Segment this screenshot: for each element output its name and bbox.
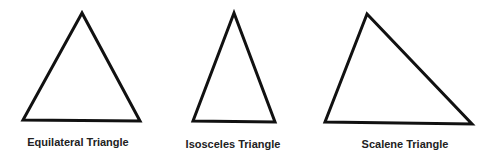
scalene-triangle-label: Scalene Triangle xyxy=(362,138,449,150)
isosceles-triangle-shape xyxy=(193,13,275,122)
isosceles-triangle-label: Isosceles Triangle xyxy=(186,138,281,150)
equilateral-triangle-label: Equilateral Triangle xyxy=(27,136,128,148)
equilateral-triangle-shape xyxy=(23,13,140,121)
scalene-triangle-shape xyxy=(325,14,472,124)
